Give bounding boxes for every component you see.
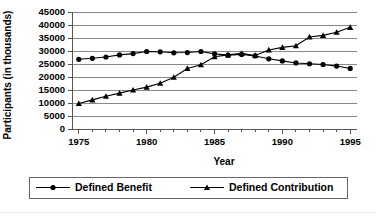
y-tick-label: 35000: [39, 32, 65, 43]
line-chart: 4500040000350003000025000200001500010000…: [0, 0, 376, 218]
y-tick-label: 40000: [39, 19, 65, 30]
data-point-circle: [293, 60, 298, 65]
y-tick-label: 5000: [44, 110, 65, 121]
data-point-circle: [158, 49, 163, 54]
x-axis-tick-labels: 19751980198519901995: [68, 136, 361, 147]
y-tick-label: 45000: [39, 6, 65, 17]
y-axis-ticks: [68, 12, 72, 129]
y-tick-label: 10000: [39, 97, 65, 108]
legend-label: Defined Benefit: [75, 181, 153, 193]
chart-canvas: 4500040000350003000025000200001500010000…: [0, 0, 376, 218]
axis-lines: [72, 12, 357, 129]
data-point-triangle: [198, 62, 204, 68]
data-point-circle: [320, 62, 325, 67]
data-point-circle: [307, 61, 312, 66]
data-point-circle: [334, 63, 339, 68]
x-axis-title: Year: [213, 156, 234, 167]
x-tick-label: 1990: [272, 136, 293, 147]
legend-marker-circle: [50, 185, 55, 190]
y-tick-label: 25000: [39, 58, 65, 69]
y-tick-label: 20000: [39, 71, 65, 82]
x-tick-label: 1975: [68, 136, 90, 147]
series-1: [76, 49, 353, 71]
x-tick-label: 1985: [204, 136, 226, 147]
data-point-circle: [90, 56, 95, 61]
data-point-circle: [144, 49, 149, 54]
data-point-circle: [185, 50, 190, 55]
y-tick-label: 30000: [39, 45, 65, 56]
y-axis-tick-labels: 4500040000350003000025000200001500010000…: [39, 6, 65, 134]
x-tick-label: 1980: [136, 136, 157, 147]
data-point-circle: [171, 50, 176, 55]
x-tick-label: 1995: [340, 136, 362, 147]
y-axis-title: Participants (in thousands): [2, 11, 13, 140]
y-tick-label: 0: [60, 123, 65, 134]
data-point-circle: [198, 49, 203, 54]
data-point-circle: [76, 57, 81, 62]
data-point-circle: [266, 56, 271, 61]
data-point-circle: [130, 51, 135, 56]
chart-legend: Defined BenefitDefined Contribution: [29, 177, 347, 198]
data-point-circle: [117, 52, 122, 57]
legend-label: Defined Contribution: [229, 181, 333, 193]
y-tick-label: 15000: [39, 84, 65, 95]
series-layer: [76, 24, 354, 106]
x-axis-ticks: [79, 129, 350, 134]
page-edge-artifact: [0, 212, 376, 213]
data-point-circle: [103, 54, 108, 59]
data-point-circle: [348, 66, 353, 71]
data-point-triangle: [157, 80, 163, 86]
data-point-circle: [280, 58, 285, 63]
